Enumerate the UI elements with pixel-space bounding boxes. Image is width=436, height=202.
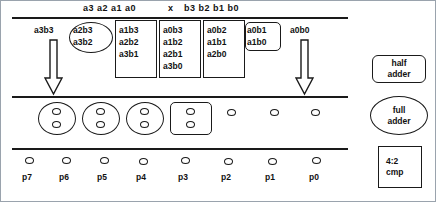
pp-term: a3b1 <box>119 49 138 60</box>
pp-term: a1b3 <box>119 25 138 36</box>
stage2-top-divider <box>12 96 348 98</box>
pp-column-2: a0b2 a1b1 a2b0 <box>207 25 226 60</box>
stage2-dot <box>186 108 195 115</box>
pp-term: a2b0 <box>207 49 226 60</box>
stage2-dot <box>140 108 149 115</box>
product-dot-p5 <box>100 157 109 164</box>
pp-term: a3b0 <box>163 61 182 72</box>
product-dot-p3 <box>181 157 190 164</box>
legend-half-adder: half adder <box>372 55 426 83</box>
product-dot-p7 <box>25 157 34 164</box>
group-ellipse-full-adder-s2-col2 <box>82 102 120 135</box>
multiply-operator-label: x <box>168 3 174 13</box>
pp-term: a2b2 <box>119 37 138 48</box>
multiplier-label: b3 b2 b1 b0 <box>184 3 239 13</box>
pp-term: a1b0 <box>247 37 266 48</box>
product-dot-p2 <box>224 158 233 165</box>
pp-term: a2b3 <box>73 25 92 36</box>
product-label-p6: p6 <box>59 172 69 182</box>
product-dot-p1 <box>268 158 277 165</box>
pp-term: a3b3 <box>34 25 53 36</box>
pp-column-0: a0b0 <box>290 25 309 36</box>
pp-column-1: a0b1 a1b0 <box>247 25 266 48</box>
legend-4to2-compressor: 4:2 cmp <box>378 146 422 188</box>
stage2-dot <box>227 109 236 116</box>
pp-column-4: a1b3 a2b2 a3b1 <box>119 25 138 60</box>
pp-column-6: a3b3 <box>34 25 53 36</box>
product-top-divider <box>12 148 348 150</box>
product-label-p4: p4 <box>136 172 146 182</box>
legend-half-adder-line1: half <box>391 58 406 69</box>
product-dot-p6 <box>62 157 71 164</box>
right-passthrough-arrow <box>296 40 316 96</box>
stage2-dot <box>96 108 105 115</box>
pp-term: a1b2 <box>163 37 182 48</box>
product-label-p0: p0 <box>309 172 319 182</box>
group-round-half-adder-s2-col4 <box>170 102 212 135</box>
multiplicand-label: a3 a2 a1 a0 <box>83 3 136 13</box>
stage2-dot <box>52 121 61 128</box>
stage2-dot <box>186 121 195 128</box>
pp-column-5: a2b3 a3b2 <box>73 25 92 48</box>
pp-term: a0b2 <box>207 25 226 36</box>
pp-column-3: a0b3 a1b2 a2b1 a3b0 <box>163 25 182 72</box>
legend-4to2-cmp-line1: 4:2 <box>386 156 398 167</box>
pp-term: a1b1 <box>207 37 226 48</box>
stage2-dot <box>140 121 149 128</box>
legend-full-adder-line2: adder <box>387 116 410 127</box>
stage2-dot <box>311 109 320 116</box>
group-ellipse-full-adder-s2-col3 <box>126 102 164 135</box>
product-dot-p4 <box>139 158 148 165</box>
product-label-p1: p1 <box>265 172 275 182</box>
pp-term: a0b1 <box>247 25 266 36</box>
stage2-dot <box>52 108 61 115</box>
left-passthrough-arrow <box>45 40 65 96</box>
legend-full-adder: full adder <box>370 96 428 135</box>
pp-term: a2b1 <box>163 49 182 60</box>
stage2-dot <box>270 109 279 116</box>
legend-4to2-cmp-line2: cmp <box>386 167 403 178</box>
product-label-p5: p5 <box>97 172 107 182</box>
pp-term: a3b2 <box>73 37 92 48</box>
legend-half-adder-line2: adder <box>387 69 410 80</box>
group-ellipse-full-adder-s2-col1 <box>38 102 76 135</box>
pp-term: a0b3 <box>163 25 182 36</box>
product-label-p7: p7 <box>22 172 32 182</box>
product-label-p2: p2 <box>221 172 231 182</box>
header-divider <box>12 17 348 19</box>
product-dot-p0 <box>312 157 321 164</box>
stage2-dot <box>96 121 105 128</box>
pp-term: a0b0 <box>290 25 309 36</box>
legend-full-adder-line1: full <box>393 105 406 116</box>
product-label-p3: p3 <box>178 172 188 182</box>
